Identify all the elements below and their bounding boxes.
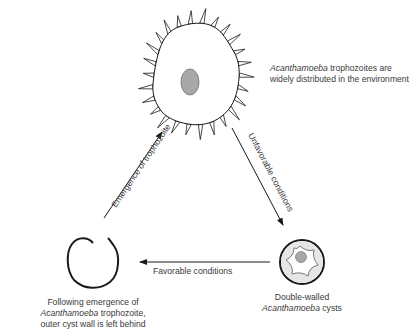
edge-label-favorable: Favorable conditions: [153, 266, 232, 276]
cyst-caption-line1: Double-walled: [275, 292, 329, 302]
cyst-nucleus: [296, 252, 307, 263]
acanthopodium-spike: [144, 58, 157, 66]
acanthopodium-spike: [234, 96, 245, 106]
trophozoite-caption-line2: widely distributed in the environment: [270, 74, 409, 84]
cyst-caption-rest: cysts: [320, 303, 342, 313]
empty-wall-caption: Following emergence of Acanthamoeba trop…: [28, 297, 158, 330]
cyst-caption-genus: Acanthamoeba: [262, 303, 320, 313]
trophozoite-nucleus: [181, 69, 199, 95]
trophozoite-caption-rest: trophozoites are: [328, 63, 392, 73]
acanthopodium-spike: [198, 124, 202, 139]
acanthopodium-spike: [228, 106, 239, 120]
acanthopodium-spike: [239, 73, 254, 77]
acanthopodium-spike: [200, 9, 206, 24]
acanthopodium-spike: [186, 124, 191, 135]
empty-wall-caption-genus: Acanthamoeba: [40, 308, 98, 318]
cyst-caption: Double-walled Acanthamoeba cysts: [252, 292, 352, 314]
edge-label-unfavorable: Unfavorable conditions: [246, 131, 295, 213]
acanthopodium-spike: [238, 84, 249, 91]
acanthopodium-spike: [177, 16, 181, 28]
acanthopodium-spike: [188, 11, 192, 25]
trophozoite-caption: Acanthamoeba trophozoites are widely dis…: [270, 63, 409, 85]
trophozoite-caption-genus: Acanthamoeba: [270, 63, 328, 73]
acanthopodium-spike: [227, 34, 240, 45]
empty-wall-caption-line1: Following emergence of: [47, 297, 138, 307]
acanthopodium-spike: [146, 43, 159, 55]
double-walled-cyst: [280, 240, 324, 284]
empty-cyst-wall-outline: [68, 238, 118, 288]
empty-cyst-wall: [68, 238, 118, 288]
acanthopodium-spike: [171, 121, 179, 133]
acanthopodium-spike: [138, 85, 152, 89]
edge-label-emergence: Emergence of trophozoite: [109, 122, 172, 209]
acanthopodium-spike: [143, 73, 154, 77]
empty-wall-caption-rest: trophozoite,: [98, 308, 145, 318]
acanthopodium-spike: [210, 121, 215, 135]
acanthopodium-spike: [238, 61, 251, 65]
trophozoite-cell: [138, 9, 254, 140]
empty-wall-caption-line3: outer cyst wall is left behind: [40, 319, 145, 329]
acanthopodium-spike: [143, 96, 155, 103]
life-cycle-diagram: Unfavorable conditions Emergence of trop…: [0, 0, 416, 335]
